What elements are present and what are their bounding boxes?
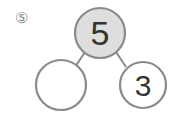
part-left-circle[interactable] bbox=[36, 60, 86, 110]
connector-right bbox=[116, 52, 126, 67]
whole-value: 5 bbox=[91, 14, 110, 52]
number-bond-diagram: 5 3 bbox=[0, 0, 179, 117]
part-right-value: 3 bbox=[135, 69, 152, 102]
